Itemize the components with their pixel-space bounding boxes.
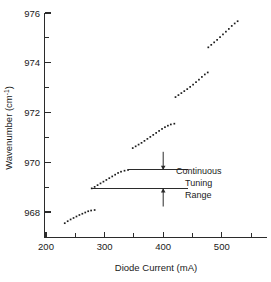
series-mode-branch-1 (64, 209, 96, 224)
data-point (120, 171, 122, 173)
y-axis-title-tail: ) (3, 86, 14, 89)
data-point (189, 86, 191, 88)
data-point (135, 145, 137, 147)
data-point (155, 132, 157, 134)
continuous-tuning-range-annotation: Continuous Tuning Range (92, 152, 222, 207)
data-point (222, 34, 224, 36)
data-point (64, 222, 66, 224)
data-point (94, 186, 96, 188)
y-axis-ticks (45, 13, 51, 212)
x-axis-title: Diode Current (mA) (115, 262, 197, 273)
plot-canvas: 976 974 972 970 968 200 300 400 500 Diod… (0, 0, 271, 282)
y-axis-title-group: Wavenumber (cm-1) (3, 86, 14, 170)
y-tick-label-976: 976 (24, 8, 40, 19)
arrow-down-icon (161, 166, 166, 170)
x-axis-tick-labels: 200 300 400 500 (38, 241, 230, 252)
data-point (76, 216, 78, 218)
data-point (132, 147, 134, 149)
data-point (207, 72, 209, 74)
data-point (124, 170, 126, 172)
data-point (204, 74, 206, 76)
data-point (181, 92, 183, 94)
data-point (79, 214, 81, 216)
data-point (70, 219, 72, 221)
data-point (138, 144, 140, 146)
data-point (100, 183, 102, 185)
x-tick-label-300: 300 (97, 241, 113, 252)
y-tick-label-970: 970 (24, 157, 40, 168)
series-mode-branch-4 (175, 72, 209, 98)
data-point (117, 172, 119, 174)
data-point (186, 88, 188, 90)
data-point (108, 177, 110, 179)
wavenumber-vs-diode-current-chart: 976 974 972 970 968 200 300 400 500 Diod… (0, 0, 271, 282)
data-point (114, 174, 116, 176)
data-points-layer (64, 20, 239, 224)
data-point (147, 138, 149, 140)
y-axis-title: Wavenumber (cm-1) (3, 86, 14, 170)
data-point (219, 36, 221, 38)
y-tick-label-972: 972 (24, 107, 40, 118)
data-point (149, 136, 151, 138)
data-point (178, 94, 180, 96)
data-point (201, 76, 203, 78)
data-point (84, 212, 86, 214)
data-point (228, 28, 230, 30)
data-point (141, 142, 143, 144)
data-point (237, 20, 239, 22)
data-point (97, 184, 99, 186)
y-tick-label-974: 974 (24, 57, 40, 68)
series-mode-branch-2 (91, 169, 129, 189)
annotation-line-continuous: Continuous (176, 166, 222, 176)
data-point (73, 217, 75, 219)
data-point (225, 31, 227, 33)
data-point (152, 134, 154, 136)
x-axis-ticks (46, 232, 251, 238)
data-point (213, 42, 215, 44)
data-point (144, 140, 146, 142)
annotation-line-tuning: Tuning (185, 178, 212, 188)
data-point (231, 25, 233, 27)
data-point (173, 123, 175, 125)
y-axis-title-main: Wavenumber (cm (3, 95, 14, 170)
series-mode-branch-3 (132, 123, 175, 149)
data-point (207, 46, 209, 48)
data-point (210, 44, 212, 46)
data-point (198, 79, 200, 81)
data-point (87, 210, 89, 212)
data-point (216, 39, 218, 41)
data-point (183, 90, 185, 92)
data-point (81, 213, 83, 215)
y-axis-tick-labels: 976 974 972 970 968 (24, 8, 40, 218)
data-point (234, 23, 236, 25)
data-point (195, 81, 197, 83)
data-point (103, 181, 105, 183)
data-point (167, 125, 169, 127)
data-point (164, 126, 166, 128)
data-point (192, 84, 194, 86)
x-tick-label-500: 500 (214, 241, 230, 252)
data-point (175, 96, 177, 98)
data-point (67, 220, 69, 222)
annotation-line-range: Range (185, 190, 212, 200)
x-tick-label-400: 400 (155, 241, 171, 252)
arrow-up-icon (161, 188, 166, 192)
data-point (90, 210, 92, 212)
series-mode-branch-5 (207, 20, 238, 48)
data-point (111, 176, 113, 178)
data-point (161, 128, 163, 130)
y-tick-label-968: 968 (24, 207, 40, 218)
data-point (170, 124, 172, 126)
x-tick-label-200: 200 (38, 241, 54, 252)
data-point (94, 209, 96, 211)
data-point (158, 130, 160, 132)
data-point (106, 179, 108, 181)
